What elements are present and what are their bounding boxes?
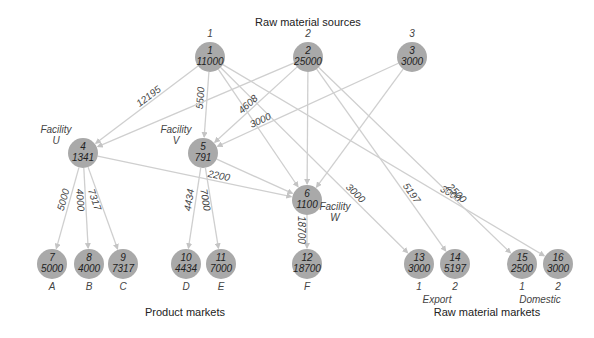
node-value: 5197 xyxy=(444,263,467,274)
node-id: 13 xyxy=(413,252,425,263)
domestic-label: Domestic xyxy=(519,294,561,305)
source-index-label: 1 xyxy=(207,28,213,39)
node-14: 1451972 xyxy=(440,249,470,292)
node-2: 2250002 xyxy=(293,28,323,72)
node-id: 12 xyxy=(301,252,313,263)
facility-letter: U xyxy=(52,135,60,146)
market-label: D xyxy=(182,281,189,292)
node-16: 1630002 xyxy=(543,249,573,292)
diagram-canvas: 1219555003000300046085197250030002200500… xyxy=(0,0,594,338)
node-11: 117000E xyxy=(206,249,236,292)
node-9: 97317C xyxy=(108,249,138,292)
node-id: 3 xyxy=(409,45,415,56)
node-7: 75000A xyxy=(37,249,67,292)
edge-flow-label: 7317 xyxy=(86,187,104,212)
source-index-label: 3 xyxy=(409,28,415,39)
node-value: 5000 xyxy=(41,263,64,274)
node-10: 104434D xyxy=(171,249,201,292)
source-index-label: 2 xyxy=(304,28,311,39)
node-id: 7 xyxy=(49,252,55,263)
node-value: 4000 xyxy=(78,263,101,274)
market-label: 1 xyxy=(519,281,525,292)
edge-2-6 xyxy=(307,72,308,184)
market-label: A xyxy=(48,281,56,292)
edge-2-4 xyxy=(98,63,294,147)
facility-letter: V xyxy=(173,135,181,146)
node-id: 11 xyxy=(216,252,226,263)
node-id: 6 xyxy=(304,188,310,199)
edge-flow-label: 2200 xyxy=(206,168,231,184)
node-id: 1 xyxy=(207,45,213,56)
node-id: 2 xyxy=(304,45,311,56)
market-label: C xyxy=(119,281,127,292)
facility-label: Facility xyxy=(40,124,72,135)
market-label: 2 xyxy=(554,281,561,292)
node-value: 2500 xyxy=(510,263,534,274)
node-value: 7000 xyxy=(210,263,233,274)
edge-flow-label: 18700 xyxy=(296,216,307,244)
node-1: 1110001 xyxy=(195,28,225,72)
node-id: 5 xyxy=(200,141,206,152)
edge-2-15 xyxy=(319,67,511,252)
node-id: 4 xyxy=(80,141,86,152)
raw-material-markets-title: Raw material markets xyxy=(434,306,541,318)
node-13: 1330001 xyxy=(404,249,434,292)
node-id: 16 xyxy=(552,252,564,263)
node-value: 18700 xyxy=(293,263,321,274)
node-value: 25000 xyxy=(293,56,322,67)
facility-label: Facility xyxy=(319,201,351,212)
facility-letter: W xyxy=(330,212,341,223)
node-id: 15 xyxy=(516,252,528,263)
edge-flow-label: 4000 xyxy=(74,189,86,212)
market-label: F xyxy=(304,281,311,292)
node-value: 3000 xyxy=(408,263,431,274)
raw-material-sources-title: Raw material sources xyxy=(255,16,361,28)
node-value: 3000 xyxy=(401,56,424,67)
edge-flow-label: 5000 xyxy=(55,187,72,212)
node-value: 1341 xyxy=(72,152,94,163)
node-id: 8 xyxy=(86,252,92,263)
product-markets-title: Product markets xyxy=(145,306,226,318)
market-label: 2 xyxy=(451,281,458,292)
edge-flow-label: 7000 xyxy=(198,188,212,212)
node-4: 41341FacilityU xyxy=(40,124,98,168)
edge-flow-label: 5500 xyxy=(194,86,207,109)
node-value: 791 xyxy=(195,152,212,163)
network-flow-diagram: 1219555003000300046085197250030002200500… xyxy=(0,0,594,338)
node-12: 1218700F xyxy=(292,249,322,292)
market-label: 1 xyxy=(416,281,422,292)
node-value: 7317 xyxy=(112,263,135,274)
node-3: 330003 xyxy=(397,28,427,72)
node-5: 5791FacilityV xyxy=(160,124,218,168)
facility-label: Facility xyxy=(160,124,192,135)
edges-layer: 1219555003000300046085197250030002200500… xyxy=(55,63,544,256)
edge-1-16 xyxy=(223,65,544,256)
node-8: 84000B xyxy=(74,249,104,292)
node-15: 1525001 xyxy=(507,249,537,292)
market-label: E xyxy=(218,281,225,292)
node-id: 10 xyxy=(180,252,192,263)
export-label: Export xyxy=(423,294,453,305)
node-id: 14 xyxy=(449,252,461,263)
node-value: 11000 xyxy=(196,56,224,67)
node-id: 9 xyxy=(120,252,126,263)
node-value: 4434 xyxy=(175,263,198,274)
node-value: 3000 xyxy=(547,263,570,274)
market-label: B xyxy=(86,281,93,292)
node-value: 1100 xyxy=(296,199,318,210)
